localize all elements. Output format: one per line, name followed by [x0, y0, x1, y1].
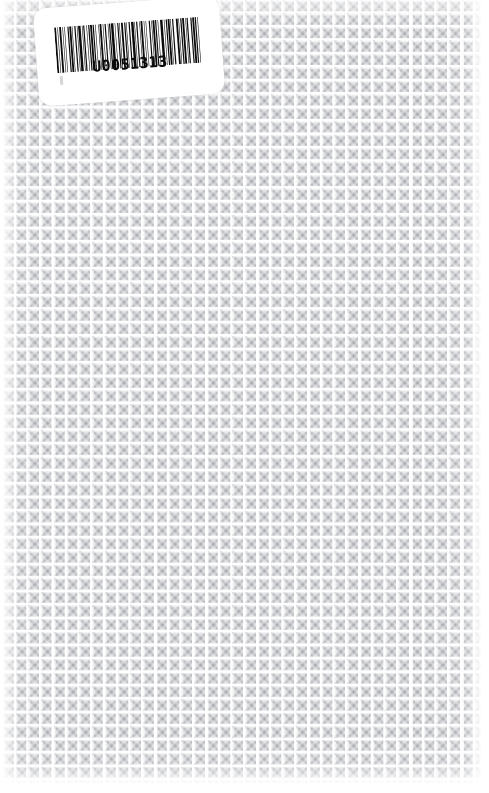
barcode-label-content: U0051313	[33, 0, 226, 107]
label-ink-smudge	[60, 76, 64, 85]
barcode-label: U0051313	[33, 0, 226, 107]
pattern-column-stripes	[3, 0, 481, 783]
patterned-paper-background	[3, 0, 481, 783]
page-canvas: U0051313	[0, 0, 489, 793]
barcode-number-text: U0051313	[92, 54, 168, 74]
